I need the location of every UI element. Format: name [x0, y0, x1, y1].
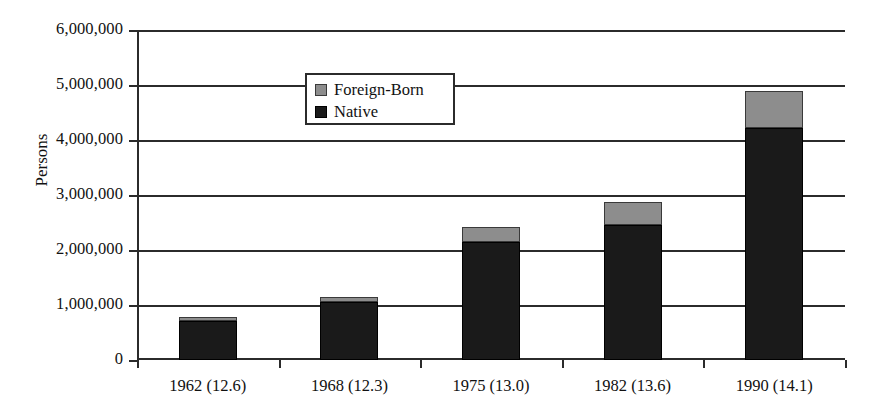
bar-segment-foreign-born — [604, 202, 662, 225]
y-axis-tick-label: 5,000,000 — [0, 74, 123, 94]
bar-stack — [604, 202, 662, 360]
x-axis-tick — [703, 360, 705, 368]
y-axis-tick-label: 1,000,000 — [0, 294, 123, 314]
bar-stack — [462, 227, 520, 360]
square-swatch-black-icon — [315, 106, 327, 118]
gridline — [137, 30, 845, 32]
y-axis-tick — [129, 250, 137, 252]
bar-segment-native — [604, 225, 662, 360]
bar-segment-native — [320, 302, 378, 360]
y-axis-tick-label: 6,000,000 — [0, 19, 123, 39]
bar-segment-native — [745, 128, 803, 360]
x-axis-tick — [279, 360, 281, 368]
y-axis-tick-label: 3,000,000 — [0, 184, 123, 204]
y-axis-tick — [129, 30, 137, 32]
y-axis-tick-label: 0 — [0, 349, 123, 369]
y-axis-tick — [129, 140, 137, 142]
bar-segment-native — [179, 321, 237, 360]
y-axis-tick-label: 2,000,000 — [0, 239, 123, 259]
chart-container: Persons 1962 (12.6)1968 (12.3)1975 (13.0… — [0, 0, 872, 405]
bar-segment-native — [462, 242, 520, 360]
x-axis-tick — [562, 360, 564, 368]
y-axis-tick — [129, 195, 137, 197]
bar-segment-foreign-born — [320, 297, 378, 301]
legend-label-native: Native — [334, 104, 378, 121]
y-axis-tick — [129, 360, 137, 362]
gridline — [137, 85, 845, 87]
x-axis-tick-label: 1968 (12.3) — [279, 376, 421, 396]
x-axis-tick-label: 1975 (13.0) — [420, 376, 562, 396]
square-swatch-gray-icon — [315, 84, 327, 96]
x-axis-tick — [137, 360, 139, 368]
chart-legend: Foreign-Born Native — [305, 73, 455, 125]
bar-segment-foreign-born — [745, 91, 803, 128]
bar-stack — [745, 91, 803, 361]
y-axis-tick — [129, 85, 137, 87]
x-axis-tick-label: 1962 (12.6) — [137, 376, 279, 396]
x-axis-tick-label: 1990 (14.1) — [703, 376, 845, 396]
bar-stack — [320, 297, 378, 360]
plot-area: 1962 (12.6)1968 (12.3)1975 (13.0)1982 (1… — [137, 30, 845, 360]
bar-segment-foreign-born — [462, 227, 520, 242]
y-axis-tick — [129, 305, 137, 307]
legend-item-native: Native — [315, 101, 453, 123]
x-axis-tick — [420, 360, 422, 368]
x-axis-tick-label: 1982 (13.6) — [562, 376, 704, 396]
bar-stack — [179, 317, 237, 360]
gridline — [137, 140, 845, 142]
y-axis-tick-label: 4,000,000 — [0, 129, 123, 149]
bar-segment-foreign-born — [179, 317, 237, 321]
legend-item-foreign-born: Foreign-Born — [315, 79, 453, 101]
gridline — [137, 195, 845, 197]
legend-label-foreign-born: Foreign-Born — [334, 82, 424, 99]
x-axis-tick — [845, 360, 847, 368]
